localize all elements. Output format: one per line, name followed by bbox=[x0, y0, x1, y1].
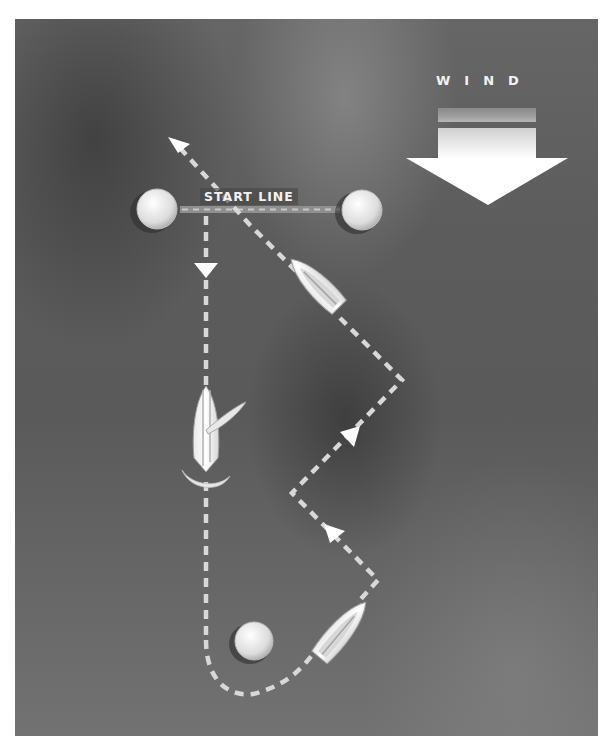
sailboat-icon bbox=[182, 386, 246, 487]
arrow-head-icon bbox=[324, 524, 345, 543]
buoy-icon bbox=[335, 190, 382, 234]
start-line-label: START LINE bbox=[200, 188, 298, 205]
mark-buoy-icon bbox=[229, 622, 273, 664]
buoy-icon bbox=[130, 189, 177, 233]
start-line bbox=[180, 206, 340, 213]
course-diagram bbox=[0, 0, 614, 751]
arrow-head-icon bbox=[194, 263, 218, 278]
path-zigzag bbox=[292, 318, 402, 600]
wind-label: WIND bbox=[436, 73, 533, 88]
arrow-head-icon bbox=[340, 426, 360, 447]
sailboat-icon bbox=[311, 595, 375, 665]
wind-arrow-icon bbox=[406, 108, 568, 205]
sailboat-icon bbox=[283, 251, 347, 315]
arrow-head-icon bbox=[168, 137, 190, 153]
